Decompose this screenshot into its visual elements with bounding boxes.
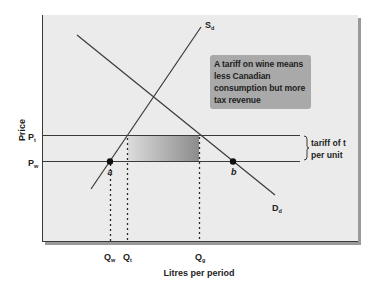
y-axis-title: Price <box>17 119 27 141</box>
tariff-annotation: tariff of t per unit <box>311 137 346 161</box>
annotation-line: consumption but more <box>214 82 307 94</box>
annotation-line: less Canadian <box>214 70 307 82</box>
pw-label: Pw <box>28 158 39 169</box>
qw-label: Qw <box>104 252 116 263</box>
pt-label: Pt <box>28 132 36 143</box>
point-b-marker <box>230 158 236 164</box>
annotation-line: A tariff on wine means <box>214 58 307 70</box>
tariff-annotation-line: tariff of t <box>311 137 346 149</box>
point-a-marker <box>107 158 113 164</box>
qt-label: Qt <box>123 252 132 263</box>
annotation-line: tax revenue <box>214 94 307 106</box>
point-a-label: a <box>108 167 113 177</box>
tax-revenue-area <box>128 135 199 161</box>
annotation-box: A tariff on wine means less Canadian con… <box>210 55 311 109</box>
qg-label: Qg <box>195 252 205 263</box>
x-axis-title: Litres per period <box>163 268 234 278</box>
point-b-label: b <box>231 167 237 177</box>
tariff-annotation-line: per unit <box>311 149 346 161</box>
